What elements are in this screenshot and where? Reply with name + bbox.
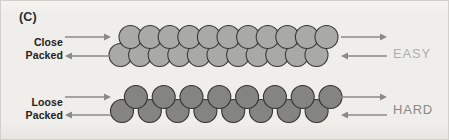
arrow-head bbox=[104, 93, 111, 100]
right-bottom-arrow bbox=[341, 52, 387, 59]
right-bottom-arrow-loose bbox=[341, 111, 387, 118]
arrow-head bbox=[65, 111, 72, 118]
compression-arrows bbox=[1, 1, 449, 140]
arrow-head bbox=[65, 52, 72, 59]
left-bottom-arrow bbox=[65, 52, 111, 59]
arrow-head bbox=[341, 52, 348, 59]
right-top-arrow-loose bbox=[341, 93, 387, 100]
figure-panel-c: (C) Close Packed Loose Packed EASY HARD bbox=[0, 0, 449, 140]
arrow-head bbox=[380, 93, 387, 100]
left-top-arrow bbox=[65, 33, 111, 40]
left-bottom-arrow-loose bbox=[65, 111, 111, 118]
arrow-head bbox=[341, 111, 348, 118]
arrow-head bbox=[104, 33, 111, 40]
left-top-arrow-loose bbox=[65, 93, 111, 100]
arrow-head bbox=[380, 33, 387, 40]
right-top-arrow bbox=[341, 33, 387, 40]
